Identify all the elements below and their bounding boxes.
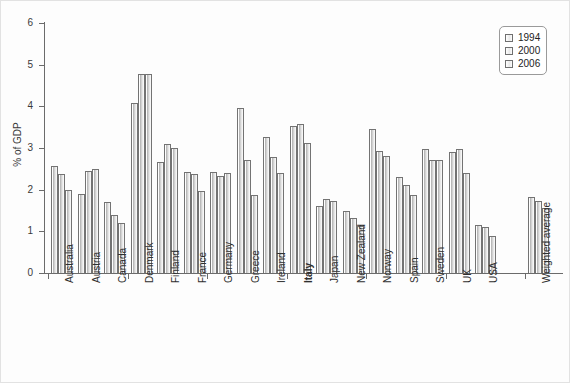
bar[interactable] [316, 206, 323, 274]
y-tick [39, 148, 44, 149]
bar[interactable] [456, 149, 463, 273]
bar[interactable] [290, 126, 297, 273]
legend-swatch-icon [505, 47, 513, 55]
x-tick-label: Italy [304, 263, 314, 283]
x-tick [128, 274, 129, 279]
x-tick-label: Denmark [145, 242, 155, 283]
bar[interactable] [369, 129, 376, 273]
bar-group [210, 23, 231, 273]
x-tick-label: Weighted average [542, 202, 552, 283]
legend-item-2006[interactable]: 2006 [505, 57, 540, 70]
x-tick-label: Australia [65, 244, 75, 283]
x-tick [525, 274, 526, 279]
x-tick-label: Greece [251, 250, 261, 283]
y-tick-label: 3 [11, 143, 33, 153]
x-tick-label: USA [489, 262, 499, 283]
legend-label: 2000 [518, 46, 540, 56]
plot-area [45, 23, 563, 273]
bar[interactable] [51, 166, 58, 274]
bar-group [157, 23, 178, 273]
bar-group [51, 23, 72, 273]
bar[interactable] [237, 108, 244, 273]
bar[interactable] [422, 149, 429, 273]
bar[interactable] [449, 152, 456, 273]
bar[interactable] [104, 202, 111, 273]
bar[interactable] [263, 137, 270, 273]
y-tick-label: 2 [11, 185, 33, 195]
bar[interactable] [210, 172, 217, 273]
bar[interactable] [297, 124, 304, 273]
bar-group [396, 23, 417, 273]
bar-group [237, 23, 258, 273]
legend-label: 1994 [518, 33, 540, 43]
x-tick-label: Germany [224, 242, 234, 283]
bar[interactable] [184, 172, 191, 273]
x-tick-label: Austria [92, 252, 102, 283]
bar[interactable] [463, 173, 470, 273]
y-tick [39, 65, 44, 66]
x-tick-label: France [198, 252, 208, 283]
legend-swatch-icon [505, 60, 513, 68]
x-tick-label: UK [463, 269, 473, 283]
y-tick [39, 190, 44, 191]
x-tick-label: Spain [410, 257, 420, 283]
legend-swatch-icon [505, 34, 513, 42]
bar[interactable] [304, 143, 311, 273]
bar-group [369, 23, 390, 273]
legend-item-1994[interactable]: 1994 [505, 31, 540, 44]
x-tick [48, 274, 49, 279]
x-tick-label: Ireland [277, 252, 287, 283]
legend[interactable]: 1994 2000 2006 [499, 26, 547, 75]
x-tick-label: Japan [330, 256, 340, 283]
bar-group [184, 23, 205, 273]
bar-group [449, 23, 470, 273]
x-tick [207, 274, 208, 279]
bar[interactable] [475, 225, 482, 273]
bar[interactable] [157, 162, 164, 273]
bar-group [422, 23, 443, 273]
x-tick-label: Finland [171, 250, 181, 283]
bar-group [78, 23, 99, 273]
y-tick-label: 6 [11, 18, 33, 28]
bar-group [131, 23, 152, 273]
y-tick-label: 5 [11, 60, 33, 70]
x-tick-label: Sweden [436, 247, 446, 283]
y-tick-label: 0 [11, 268, 33, 278]
x-tick-label: Norway [383, 249, 393, 283]
bar[interactable] [131, 103, 138, 273]
x-tick-label: Canada [118, 248, 128, 283]
x-tick [287, 274, 288, 279]
bar-group [475, 23, 496, 273]
y-tick-label: 1 [11, 226, 33, 236]
bar-group [104, 23, 125, 273]
y-tick [39, 23, 44, 24]
bar[interactable] [343, 211, 350, 273]
bar[interactable] [78, 194, 85, 273]
bar-group [316, 23, 337, 273]
x-tick [366, 274, 367, 279]
bar-group [263, 23, 284, 273]
x-tick [446, 274, 447, 279]
legend-label: 2006 [518, 59, 540, 69]
y-tick-label: 4 [11, 101, 33, 111]
chart-figure: % of GDP 0123456 AustraliaAustriaCanadaD… [0, 0, 570, 383]
y-tick [39, 273, 44, 274]
x-tick-label: New Zealand [357, 224, 367, 283]
y-tick [39, 106, 44, 107]
bar[interactable] [396, 177, 403, 273]
y-tick [39, 231, 44, 232]
bar[interactable] [528, 197, 535, 273]
legend-item-2000[interactable]: 2000 [505, 44, 540, 57]
bar-group [290, 23, 311, 273]
